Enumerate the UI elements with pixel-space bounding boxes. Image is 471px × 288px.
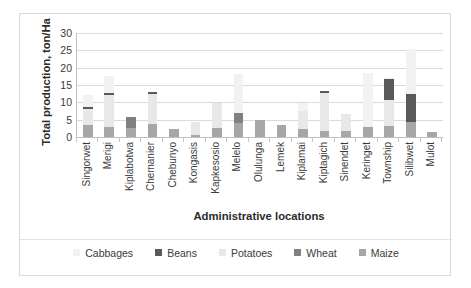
bar-segment-cabbages[interactable]	[298, 103, 308, 111]
bar-series-group	[77, 33, 443, 137]
bar-stack[interactable]	[83, 95, 93, 137]
bar-segment-cabbages[interactable]	[104, 76, 114, 93]
bar-slot[interactable]	[292, 33, 314, 137]
bar-slot[interactable]	[206, 33, 228, 137]
bar-segment-maize[interactable]	[363, 127, 373, 137]
legend-swatch-icon	[155, 249, 162, 256]
bar-slot[interactable]	[185, 33, 207, 137]
category-cell: Township	[377, 142, 399, 204]
bar-segment-maize[interactable]	[277, 125, 287, 137]
bar-segment-maize[interactable]	[298, 129, 308, 137]
plot-area: Total production, ton/Ha 051015202530 Si…	[20, 14, 452, 210]
bar-stack[interactable]	[298, 103, 308, 137]
bar-segment-cabbages[interactable]	[234, 74, 244, 113]
bar-segment-cabbages[interactable]	[83, 95, 93, 107]
category-label: Melelo	[232, 142, 242, 171]
bar-stack[interactable]	[341, 114, 351, 137]
y-tick-label: 20	[48, 62, 72, 74]
bar-stack[interactable]	[255, 120, 265, 137]
bar-stack[interactable]	[104, 76, 114, 137]
bar-segment-wheat[interactable]	[126, 117, 136, 128]
y-tick-label: 25	[48, 44, 72, 56]
category-cell: Sinendet	[334, 142, 356, 204]
bar-segment-maize[interactable]	[169, 129, 179, 137]
bar-stack[interactable]	[126, 117, 136, 137]
bar-segment-maize[interactable]	[406, 122, 416, 137]
bar-slot[interactable]	[422, 33, 444, 137]
bar-stack[interactable]	[406, 49, 416, 137]
legend-label: Maize	[371, 247, 399, 259]
bar-slot[interactable]	[142, 33, 164, 137]
legend-swatch-icon	[294, 249, 301, 256]
bar-segment-maize[interactable]	[83, 125, 93, 137]
bar-segment-potatoes[interactable]	[341, 114, 351, 131]
bar-slot[interactable]	[99, 33, 121, 137]
bar-stack[interactable]	[234, 74, 244, 137]
bar-segment-cabbages[interactable]	[363, 73, 373, 128]
bar-stack[interactable]	[169, 129, 179, 137]
bar-slot[interactable]	[378, 33, 400, 137]
bar-stack[interactable]	[320, 91, 330, 137]
bar-segment-maize[interactable]	[148, 124, 158, 137]
category-cell: Kapkesosio	[205, 142, 227, 204]
category-label: Keringet	[362, 142, 372, 179]
bar-segment-potatoes[interactable]	[148, 94, 158, 124]
bar-stack[interactable]	[148, 92, 158, 137]
bar-slot[interactable]	[163, 33, 185, 137]
y-tick-label: 0	[48, 131, 72, 143]
bar-slot[interactable]	[400, 33, 422, 137]
bar-stack[interactable]	[212, 103, 222, 137]
category-label: Mulot	[426, 142, 436, 166]
bar-stack[interactable]	[191, 122, 201, 137]
y-tick-label: 15	[48, 79, 72, 91]
bar-slot[interactable]	[271, 33, 293, 137]
category-cell: Mulot	[421, 142, 443, 204]
bar-slot[interactable]	[314, 33, 336, 137]
bar-segment-potatoes[interactable]	[191, 122, 201, 135]
bar-segment-potatoes[interactable]	[212, 103, 222, 127]
category-cell: Melelo	[227, 142, 249, 204]
category-label: Kiplabotwa	[125, 142, 135, 191]
bar-segment-wheat[interactable]	[234, 113, 244, 123]
bar-slot[interactable]	[249, 33, 271, 137]
legend-item[interactable]: Maize	[359, 247, 399, 259]
bar-segment-cabbages[interactable]	[406, 49, 416, 93]
legend-item[interactable]: Cabbages	[73, 247, 133, 259]
category-label: Kiplamai	[297, 142, 307, 180]
category-label: Chebunyo	[168, 142, 178, 188]
category-label: Township	[383, 142, 393, 184]
bar-segment-potatoes[interactable]	[104, 95, 114, 127]
bar-stack[interactable]	[363, 73, 373, 137]
bar-stack[interactable]	[384, 78, 394, 137]
category-label: Silibwet	[405, 142, 415, 176]
bar-segment-potatoes[interactable]	[298, 111, 308, 129]
bar-segment-maize[interactable]	[212, 128, 222, 137]
bar-segment-maize[interactable]	[104, 127, 114, 137]
bar-segment-maize[interactable]	[126, 128, 136, 137]
bar-slot[interactable]	[228, 33, 250, 137]
legend-swatch-icon	[219, 249, 226, 256]
x-axis-title: Administrative locations	[76, 210, 442, 222]
bar-segment-potatoes[interactable]	[83, 109, 93, 125]
category-cell: Kiptagich	[313, 142, 335, 204]
category-cell: Merigi	[98, 142, 120, 204]
bar-segment-potatoes[interactable]	[320, 93, 330, 131]
legend-item[interactable]: Beans	[155, 247, 197, 259]
bar-slot[interactable]	[120, 33, 142, 137]
bar-segment-beans[interactable]	[384, 79, 394, 99]
bar-slot[interactable]	[335, 33, 357, 137]
legend-item[interactable]: Wheat	[294, 247, 336, 259]
bar-stack[interactable]	[277, 125, 287, 137]
bar-slot[interactable]	[77, 33, 99, 137]
bar-slot[interactable]	[357, 33, 379, 137]
category-label: Chemanier	[146, 142, 156, 191]
bar-segment-potatoes[interactable]	[384, 100, 394, 126]
bar-segment-maize[interactable]	[255, 120, 265, 137]
bar-segment-maize[interactable]	[384, 126, 394, 137]
legend-swatch-icon	[359, 249, 366, 256]
legend-item[interactable]: Potatoes	[219, 247, 272, 259]
y-tick-label: 5	[48, 114, 72, 126]
bar-segment-beans[interactable]	[406, 94, 416, 122]
bar-segment-maize[interactable]	[234, 123, 244, 137]
legend-label: Cabbages	[85, 247, 133, 259]
